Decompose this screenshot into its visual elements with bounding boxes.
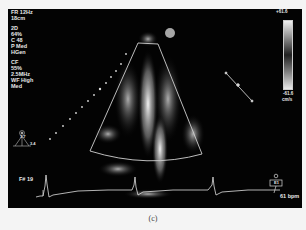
ecg-box-label: E1 [274, 180, 279, 186]
scale-unit: cm/s [282, 97, 292, 103]
scale-top-label: +61.6 [276, 9, 287, 15]
probe-value-right: 3.4 [30, 141, 36, 147]
heart-rate: 61 bpm [280, 193, 299, 199]
ultrasound-display: FR 12Hz 18cm 2D 64% C 48 P Med HGen CF 5… [8, 9, 302, 208]
velocity-color-scale [283, 20, 293, 90]
figure-caption: (c) [0, 214, 306, 223]
probe-value-left: 1.7 [20, 134, 26, 140]
measurement-caliper [225, 72, 253, 102]
echo-image [8, 9, 302, 208]
frame-number: F# 19 [19, 176, 33, 182]
